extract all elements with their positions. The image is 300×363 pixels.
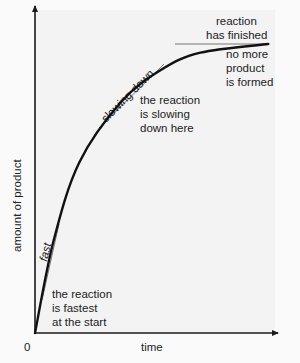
- middle-note-line-3: down here: [140, 122, 194, 134]
- x-axis-label: time: [141, 341, 163, 353]
- y-axis-label: amount of product: [11, 158, 23, 252]
- finished-label-line-2: has finished: [206, 29, 267, 41]
- end-note: no more product is formed: [226, 48, 273, 88]
- end-note-line-3: is formed: [226, 76, 273, 88]
- finished-label-line-1: reaction: [216, 15, 257, 27]
- middle-note-line-2: is slowing: [140, 108, 190, 120]
- origin-label: 0: [24, 341, 30, 353]
- start-note-line-1: the reaction: [52, 288, 112, 300]
- middle-note-line-1: the reaction: [140, 94, 200, 106]
- start-note-line-3: at the start: [52, 316, 107, 328]
- end-note-line-2: product: [226, 62, 265, 74]
- reaction-rate-diagram: 0 time amount of product fast slowing do…: [0, 0, 300, 363]
- start-note-line-2: is fastest: [52, 302, 98, 314]
- end-note-line-1: no more: [226, 48, 268, 60]
